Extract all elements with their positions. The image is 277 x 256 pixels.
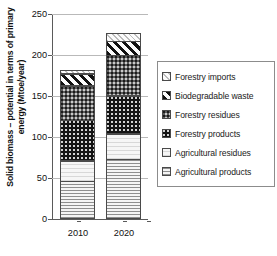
y-tick-label-100: 100 [32,132,47,142]
legend-label-forestry-imports: Forestry imports [175,72,235,82]
legend-item-biodegradable-waste[interactable]: Biodegradable waste [162,86,271,105]
axis-baseline [52,219,148,220]
y-tick-label-0: 0 [42,214,47,224]
segment-2020-biodegradable-waste[interactable] [106,41,141,56]
chart-plot-area: 250 200 150 100 50 0 2010 2020 [52,14,148,219]
legend-label-biodegradable-waste: Biodegradable waste [175,91,253,101]
dark-speckle-swatch-icon [162,110,171,119]
legend-label-forestry-products: Forestry products [175,129,240,139]
legend-item-forestry-residues[interactable]: Forestry residues [162,105,271,124]
legend-label-agricultural-products: Agricultural products [175,167,251,177]
bar-2020[interactable] [106,34,141,219]
y-tick-mark-100 [48,137,52,138]
segment-2010-forestry-products[interactable] [60,120,95,161]
y-tick-mark-0 [48,219,52,220]
segment-2020-forestry-products[interactable] [106,96,141,135]
segment-2020-agricultural-products[interactable] [106,159,141,219]
segment-2020-agricultural-residues[interactable] [106,134,141,160]
y-tick-label-50: 50 [37,173,47,183]
legend-item-agricultural-residues[interactable]: Agricultural residues [162,143,271,162]
y-axis-title: Solid biomass – potential in terms of pr… [5,0,27,197]
y-tick-mark-250 [48,14,52,15]
y-tick-label-200: 200 [32,50,47,60]
legend-item-forestry-products[interactable]: Forestry products [162,124,271,143]
segment-2010-agricultural-products[interactable] [60,181,95,219]
segment-2020-forestry-residues[interactable] [106,55,141,96]
grey-line-swatch-icon [162,167,171,176]
segment-2010-biodegradable-waste[interactable] [60,74,95,86]
y-tick-mark-50 [48,178,52,179]
x-tick-mark-2020 [123,221,127,222]
y-tick-mark-150 [48,96,52,97]
legend-label-agricultural-residues: Agricultural residues [175,148,251,158]
chart-legend: Forestry imports Biodegradable waste For… [157,61,275,187]
legend-item-forestry-imports[interactable]: Forestry imports [162,67,271,86]
x-tick-mark-2010 [77,221,81,222]
segment-2010-forestry-residues[interactable] [60,86,95,121]
gridline-250 [52,14,148,15]
y-tick-label-250: 250 [32,9,47,19]
bar-2010[interactable] [60,71,95,219]
light-line-swatch-icon [162,148,171,157]
y-tick-mark-200 [48,55,52,56]
legend-label-forestry-residues: Forestry residues [175,110,240,120]
legend-item-agricultural-products[interactable]: Agricultural products [162,162,271,181]
y-tick-label-150: 150 [32,91,47,101]
x-tick-mark-end [147,221,151,222]
diagonal-black-hatch-swatch-icon [162,91,171,100]
black-dotted-swatch-icon [162,129,171,138]
x-axis-label-2020: 2020 [94,228,154,238]
diagonal-light-hatch-swatch-icon [162,72,171,81]
segment-2010-agricultural-residues[interactable] [60,161,95,182]
